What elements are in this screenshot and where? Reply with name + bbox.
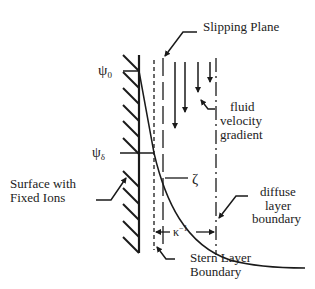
psi-delta-label: ψδ [92,145,105,162]
slipping-plane-pointer [165,32,197,56]
zeta-label: ζ [192,171,198,187]
psi0-label: ψ0 [98,62,112,80]
stern-label-1: Stern Layer [190,250,252,265]
fluid-label-1: fluid [230,99,255,114]
diffuse-boundary-pointer [219,196,248,218]
surface-hatching [123,55,139,253]
debye-length-label: κ−1 [173,224,188,239]
diffuse-label-1: diffuse [260,184,296,199]
diffuse-label-3: boundary [252,211,302,226]
fluid-label-3: gradient [220,127,263,142]
surface-pointer [96,178,126,200]
potential-curve [139,71,305,268]
fluid-gradient-pointer [201,100,215,109]
stern-label-2: Boundary [190,264,242,279]
stern-pointer [157,247,175,259]
double-layer-diagram: Slipping Plane fluid velocity gradient ψ… [0,0,315,289]
slipping-plane-label: Slipping Plane [203,19,279,34]
surface-label-1: Surface with [10,176,77,191]
surface-label-2: Fixed Ions [10,190,65,205]
fluid-label-2: velocity [220,113,262,128]
velocity-arrows [175,62,210,128]
